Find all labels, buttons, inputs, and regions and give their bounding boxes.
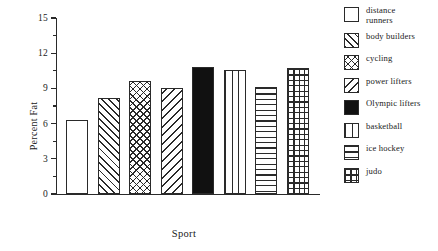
bar-power-lifters (161, 88, 183, 194)
y-tick-label: 15 (38, 13, 48, 23)
y-tick-label: 3 (43, 154, 48, 164)
bar-ice-hockey (255, 87, 277, 194)
bar-chart: Percent Fat 03691215 Sport distance runn… (0, 0, 438, 251)
legend-swatch-icon (344, 100, 359, 115)
legend-swatch-icon (344, 7, 359, 22)
plot-area: 03691215 (56, 18, 312, 194)
bar-cycling (129, 81, 151, 194)
legend-item-label: Olympic lifters (366, 99, 421, 109)
legend-item[interactable]: power lifters (344, 77, 436, 93)
legend-item-label: judo (366, 167, 382, 177)
x-axis-title: Sport (56, 228, 312, 239)
x-axis-line (56, 194, 320, 195)
legend-item[interactable]: body builders (344, 32, 436, 48)
legend-swatch-icon (344, 123, 359, 138)
legend-item-label: ice hockey (366, 144, 404, 154)
legend-item-label: basketball (366, 122, 402, 132)
legend-item[interactable]: ice hockey (344, 144, 436, 160)
y-tick-label: 9 (43, 83, 48, 93)
bar-basketball (224, 70, 246, 194)
bar-body-builders (98, 98, 120, 194)
legend-item[interactable]: Olympic lifters (344, 99, 436, 115)
legend-item[interactable]: judo (344, 167, 436, 183)
legend-item-label: distance runners (366, 6, 395, 25)
bar-olympic-lifters (192, 67, 214, 194)
y-tick-label: 0 (43, 189, 48, 199)
bar-series (56, 18, 312, 194)
y-axis-title: Percent Fat (28, 101, 39, 150)
y-tick-label: 6 (43, 119, 48, 129)
legend-swatch-icon (344, 78, 359, 93)
legend-item[interactable]: cycling (344, 54, 436, 70)
bar-judo (287, 68, 309, 194)
legend-swatch-icon (344, 33, 359, 48)
bar-distance-runners (66, 120, 88, 194)
legend-item[interactable]: basketball (344, 122, 436, 138)
legend-item-label: power lifters (366, 77, 412, 87)
legend-item[interactable]: distance runners (344, 6, 436, 25)
legend-swatch-icon (344, 145, 359, 160)
y-tick-label: 12 (38, 48, 48, 58)
legend-item-label: body builders (366, 32, 415, 42)
legend-swatch-icon (344, 168, 359, 183)
legend-swatch-icon (344, 55, 359, 70)
legend: distance runnersbody builderscyclingpowe… (344, 6, 436, 189)
legend-item-label: cycling (366, 54, 392, 64)
